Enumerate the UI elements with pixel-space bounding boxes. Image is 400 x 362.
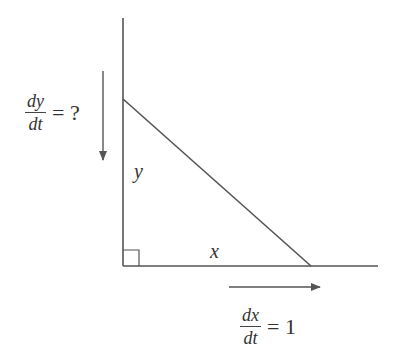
rate-y-equals: = ? — [52, 100, 80, 126]
fraction-bar — [25, 112, 46, 113]
rate-x-denominator: dt — [241, 328, 259, 348]
label-x: x — [210, 240, 219, 263]
rate-x-equals: = 1 — [267, 314, 296, 340]
rate-y-denominator: dt — [26, 114, 44, 134]
rate-x-expression: dx dt = 1 — [240, 305, 296, 348]
rate-y-numerator: dy — [25, 91, 46, 111]
rate-y-expression: dy dt = ? — [25, 91, 80, 134]
fraction-bar — [240, 326, 261, 327]
diagram-canvas — [0, 0, 400, 362]
label-y: y — [134, 160, 143, 183]
rate-x-numerator: dx — [240, 305, 261, 325]
right-angle-marker — [123, 250, 139, 266]
